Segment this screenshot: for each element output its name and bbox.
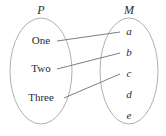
diagram-canvas: P M One Two Three a b c d e bbox=[0, 0, 166, 136]
codomain-element-b: b bbox=[126, 46, 132, 58]
codomain-element-c: c bbox=[127, 67, 132, 79]
codomain-element-d: d bbox=[126, 88, 132, 100]
codomain-element-e: e bbox=[127, 109, 132, 121]
codomain-element-a: a bbox=[126, 25, 132, 37]
domain-element-three: Three bbox=[28, 91, 54, 103]
domain-set-label: P bbox=[36, 3, 45, 17]
set-mapping-diagram: P M One Two Three a b c d e bbox=[0, 0, 166, 136]
domain-element-one: One bbox=[32, 34, 50, 46]
codomain-set-label: M bbox=[123, 3, 135, 17]
domain-element-two: Two bbox=[31, 62, 51, 74]
